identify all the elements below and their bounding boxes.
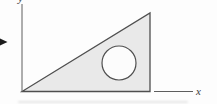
x-axis-label: x <box>195 85 201 97</box>
inscribed-circle <box>102 46 136 80</box>
pointer-arrow-icon <box>0 39 8 46</box>
scan-shadow-artifact <box>18 101 188 103</box>
y-axis-label: y <box>17 0 23 4</box>
figure-canvas: y x <box>0 0 217 104</box>
geometry-figure: y x <box>0 0 217 104</box>
